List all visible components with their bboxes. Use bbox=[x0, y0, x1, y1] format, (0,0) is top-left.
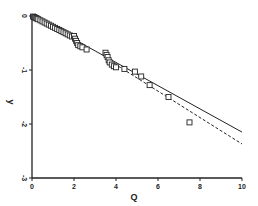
y-tick-label: -2 bbox=[21, 121, 28, 127]
x-tick-label: 0 bbox=[30, 183, 34, 190]
x-axis-label: Q bbox=[130, 192, 137, 202]
x-tick-label: 2 bbox=[72, 183, 76, 190]
data-point bbox=[84, 47, 89, 52]
y-tick-label: 0 bbox=[21, 14, 28, 18]
x-tick-label: 8 bbox=[198, 183, 202, 190]
data-point bbox=[114, 65, 119, 70]
data-point bbox=[122, 66, 127, 71]
y-tick-label: -3 bbox=[21, 175, 28, 181]
x-tick-label: 4 bbox=[114, 183, 118, 190]
axes bbox=[32, 16, 242, 178]
data-point bbox=[147, 83, 152, 88]
ticks: 02468100-1-2-3 bbox=[21, 14, 246, 190]
data-point bbox=[132, 69, 137, 74]
data-point bbox=[187, 120, 192, 125]
data-points bbox=[31, 14, 192, 125]
x-tick-label: 6 bbox=[156, 183, 160, 190]
y-axis-label: y bbox=[6, 99, 16, 104]
x-tick-label: 10 bbox=[238, 183, 246, 190]
chart: 02468100-1-2-3 Q y bbox=[0, 0, 258, 206]
data-point bbox=[166, 95, 171, 100]
data-point bbox=[139, 74, 144, 79]
y-tick-label: -1 bbox=[21, 67, 28, 73]
